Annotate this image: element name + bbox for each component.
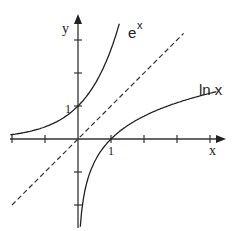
log-curve-label: ln x [199, 81, 223, 98]
function-curves [10, 24, 216, 227]
y-axis-label: y [62, 21, 69, 36]
exp-curve [10, 24, 119, 135]
exp-curve-label: e [128, 24, 136, 41]
y-axis-arrow-icon [74, 14, 82, 24]
log-curve [80, 92, 216, 227]
identity-dashed-line [12, 33, 184, 205]
labels: y x 1 1 e x ln x [62, 19, 223, 158]
x-axis-label: x [209, 143, 216, 158]
x-axis-arrow-icon [216, 135, 226, 143]
x-tick-label-one: 1 [108, 144, 114, 158]
identity-line-y-equals-x [12, 33, 184, 205]
exp-curve-label-superscript: x [137, 19, 143, 31]
y-tick-label-one: 1 [65, 102, 71, 116]
coordinate-axes [10, 14, 226, 228]
function-graph: y x 1 1 e x ln x [0, 0, 234, 231]
